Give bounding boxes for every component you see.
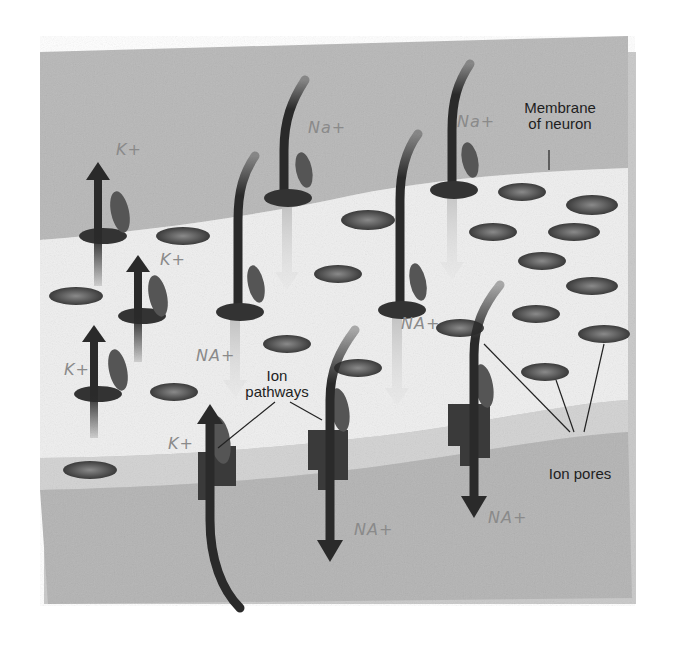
handwritten-na-label: NA+	[488, 508, 527, 527]
ion-pore	[578, 325, 630, 343]
ion-pore	[512, 305, 560, 323]
ion-pore	[341, 210, 395, 230]
handwritten-na-label: NA+	[401, 314, 440, 333]
membrane-label-line2: of neuron	[500, 116, 620, 132]
ion-pore	[150, 383, 198, 401]
ion-pore	[548, 223, 600, 241]
ion-pore	[156, 227, 210, 245]
ion-pathways-label: Ion pathways	[232, 368, 322, 400]
ion-pathways-label-line1: Ion	[232, 368, 322, 384]
membrane-label-line1: Membrane	[500, 100, 620, 116]
handwritten-k-label: K+	[64, 360, 90, 379]
ion-pores-label: Ion pores	[535, 466, 625, 482]
ion-pore	[566, 195, 618, 215]
ion-pore	[518, 252, 566, 270]
ion-pore	[521, 363, 569, 381]
ion-pore	[263, 335, 311, 353]
ion-pore	[314, 265, 362, 283]
ion-pore	[469, 223, 517, 241]
handwritten-na-label: Na+	[457, 112, 495, 131]
handwritten-na-label: NA+	[354, 520, 393, 539]
ion-pore	[498, 183, 546, 201]
ion-pathways-label-line2: pathways	[232, 384, 322, 400]
membrane-label: Membrane of neuron	[500, 100, 620, 132]
handwritten-na-label: NA+	[196, 346, 235, 365]
ion-pore	[49, 287, 103, 305]
handwritten-na-label: Na+	[308, 118, 346, 137]
ion-pore	[566, 277, 618, 295]
handwritten-k-label: K+	[168, 434, 194, 453]
handwritten-k-label: K+	[116, 140, 142, 159]
ion-channel-diagram: Membrane of neuron Ion pathways Ion pore…	[0, 0, 695, 654]
ion-pore	[63, 461, 117, 479]
handwritten-k-label: K+	[160, 250, 186, 269]
